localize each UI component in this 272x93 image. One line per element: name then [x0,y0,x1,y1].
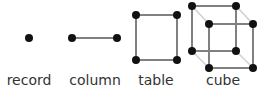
cube-shape [188,2,257,72]
cube-label: cube [206,72,240,88]
record-label: record [7,72,52,88]
table-label: table [138,72,173,88]
column-shape [68,34,121,42]
record-shape [25,34,33,42]
table-shape [132,11,181,64]
column-label: column [69,72,121,88]
